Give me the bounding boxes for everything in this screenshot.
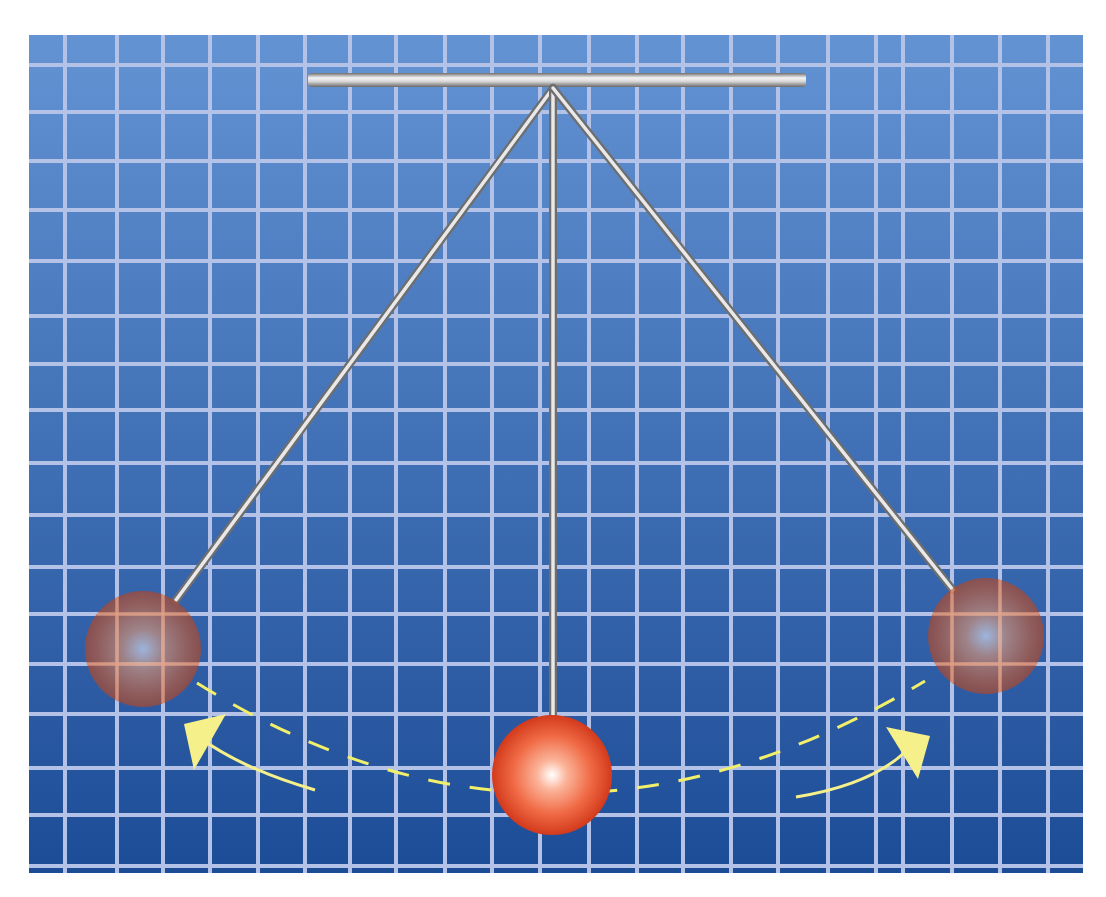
right-bob	[928, 578, 1044, 694]
pendulum-diagram	[0, 0, 1106, 897]
left-bob	[85, 591, 201, 707]
support-bar	[308, 73, 806, 87]
center-bob	[492, 715, 612, 835]
